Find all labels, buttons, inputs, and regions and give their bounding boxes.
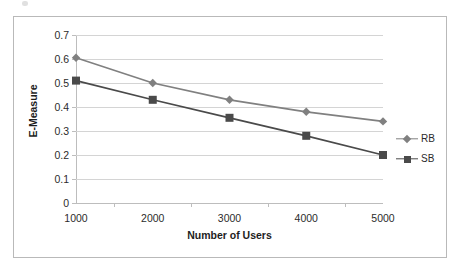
legend-label-rb: RB xyxy=(421,134,435,144)
x-tick-label: 4000 xyxy=(295,212,318,224)
series-layer xyxy=(76,35,383,203)
chart-figure: E-Measure Number of Users 00.10.20.30.40… xyxy=(0,0,460,270)
x-tick-label: 5000 xyxy=(371,212,394,224)
gridline xyxy=(76,203,383,204)
y-tick-label: 0 xyxy=(63,197,69,209)
y-tick-label: 0.5 xyxy=(54,77,69,89)
data-point-sb-4000 xyxy=(302,132,310,140)
x-tick-mark xyxy=(345,203,346,207)
x-tick-mark xyxy=(268,203,269,207)
data-point-sb-2000 xyxy=(149,96,157,104)
x-tick-mark xyxy=(191,203,192,207)
legend-item-rb: RB xyxy=(396,129,446,149)
y-tick-label: 0.6 xyxy=(54,53,69,65)
y-tick-label: 0.2 xyxy=(54,149,69,161)
data-point-sb-1000 xyxy=(72,77,80,85)
data-point-rb-3000 xyxy=(225,96,233,104)
chart-frame: E-Measure Number of Users 00.10.20.30.40… xyxy=(13,16,447,258)
x-tick-label: 2000 xyxy=(141,212,164,224)
plot-area: 00.10.20.30.40.50.60.7 10002000300040005… xyxy=(76,35,383,203)
scan-artifact-speck xyxy=(22,1,28,6)
legend-swatch-rb-diamond-icon xyxy=(396,133,418,145)
series-line-rb xyxy=(76,58,383,122)
series-sb xyxy=(72,77,387,159)
data-point-rb-2000 xyxy=(149,79,157,87)
data-point-rb-5000 xyxy=(379,117,387,125)
legend-swatch-sb-square-icon xyxy=(396,153,418,165)
y-tick-label: 0.3 xyxy=(54,125,69,137)
data-point-rb-4000 xyxy=(302,108,310,116)
legend-item-sb: SB xyxy=(396,149,446,169)
x-tick-label: 3000 xyxy=(218,212,241,224)
y-axis-title: E-Measure xyxy=(27,66,39,156)
data-point-rb-1000 xyxy=(72,54,80,62)
x-tick-label: 1000 xyxy=(64,212,87,224)
y-tick-label: 0.4 xyxy=(54,101,69,113)
data-point-sb-3000 xyxy=(226,114,234,122)
y-tick-label: 0.1 xyxy=(54,173,69,185)
legend: RB SB xyxy=(396,129,446,169)
x-tick-mark xyxy=(114,203,115,207)
y-tick-label: 0.7 xyxy=(54,29,69,41)
data-point-sb-5000 xyxy=(379,151,387,159)
x-axis-title: Number of Users xyxy=(76,229,383,241)
legend-label-sb: SB xyxy=(421,154,434,164)
y-tick-mark xyxy=(72,203,76,204)
